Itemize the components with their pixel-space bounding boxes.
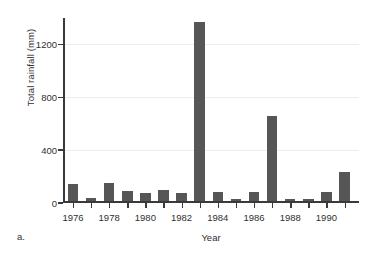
x-tick-mark: [163, 203, 164, 208]
x-tick-mark: [127, 203, 128, 208]
bar: [122, 191, 133, 202]
gridline: [65, 97, 359, 98]
x-tick-label: 1978: [89, 212, 129, 223]
y-tick-label: 800: [0, 92, 57, 103]
bar: [86, 198, 97, 201]
x-tick-mark: [236, 203, 237, 208]
x-tick-mark: [145, 203, 146, 208]
bar: [285, 199, 296, 201]
bar: [68, 184, 79, 201]
y-tick-label: 400: [0, 145, 57, 156]
x-tick-mark: [290, 203, 291, 208]
x-tick-label: 1982: [162, 212, 202, 223]
y-axis-spine: [63, 18, 65, 203]
x-axis-title: Year: [63, 232, 359, 243]
y-axis-title: Total rainfall (mm): [25, 0, 36, 148]
bar: [321, 192, 332, 201]
x-tick-mark: [218, 203, 219, 208]
bar: [158, 190, 169, 201]
bar: [176, 193, 187, 201]
bar: [339, 172, 350, 202]
y-tick-mark: [58, 149, 63, 150]
bar: [194, 22, 205, 201]
x-tick-mark: [308, 203, 309, 208]
x-tick-mark: [109, 203, 110, 208]
x-tick-mark: [182, 203, 183, 208]
x-tick-mark: [272, 203, 273, 208]
x-tick-mark: [345, 203, 346, 208]
x-tick-label: 1990: [306, 212, 346, 223]
bar: [249, 192, 260, 202]
bar: [267, 116, 278, 201]
rainfall-bar-chart-figure: Total rainfall (mm) 04008001200 19761978…: [0, 0, 370, 256]
bar: [303, 199, 314, 202]
x-tick-mark: [91, 203, 92, 208]
bar: [213, 192, 224, 202]
bar: [104, 183, 115, 202]
x-tick-label: 1976: [53, 212, 93, 223]
x-tick-mark: [326, 203, 327, 208]
gridline: [65, 44, 359, 45]
figure-caption: a.: [17, 231, 25, 242]
x-tick-mark: [73, 203, 74, 208]
x-tick-mark: [200, 203, 201, 208]
y-tick-label: 0: [0, 198, 57, 209]
x-tick-label: 1984: [198, 212, 238, 223]
y-tick-mark: [58, 44, 63, 45]
gridline: [65, 150, 359, 151]
x-tick-mark: [254, 203, 255, 208]
x-axis-spine: [63, 201, 359, 203]
y-tick-mark: [58, 202, 63, 203]
x-tick-label: 1986: [234, 212, 274, 223]
y-tick-label: 1200: [0, 39, 57, 50]
x-tick-label: 1988: [270, 212, 310, 223]
bar: [231, 199, 242, 202]
plot-area: 04008001200 1976197819801982198419861988…: [63, 18, 359, 203]
x-tick-label: 1980: [125, 212, 165, 223]
bar: [140, 193, 151, 201]
y-tick-mark: [58, 97, 63, 98]
